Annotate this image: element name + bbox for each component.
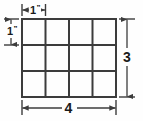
left-unit-inch-mark: ” [14,24,18,33]
overall-height-value: 3 [123,49,131,65]
dimension-top-cell-width: 1 ” [22,3,46,17]
overall-width-value: 4 [65,100,73,116]
top-unit-value: 1 [30,4,36,16]
rectangle-grid-figure: 1 ” 1 ” 3 4 [0,0,143,121]
diagram-canvas: 1 ” 1 ” 3 4 [0,0,143,121]
left-unit-value: 1 [7,25,13,37]
dimension-overall-height: 3 [119,19,135,97]
dimension-left-cell-height: 1 ” [4,19,19,45]
dimension-overall-width: 4 [22,99,116,117]
top-unit-inch-mark: ” [37,3,41,12]
vertical-grid-lines [46,19,93,97]
